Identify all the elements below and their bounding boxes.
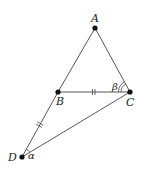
angle-beta-arcs bbox=[119, 82, 126, 92]
label-D: D bbox=[7, 151, 17, 164]
segment-BD bbox=[22, 92, 58, 157]
point-D bbox=[19, 154, 24, 159]
point-C bbox=[127, 89, 132, 94]
point-A bbox=[92, 25, 97, 30]
segment-AB bbox=[58, 28, 95, 92]
segment-CD bbox=[22, 92, 130, 157]
label-alpha: α bbox=[28, 150, 35, 161]
label-beta: β bbox=[111, 81, 118, 92]
point-B bbox=[55, 89, 60, 94]
label-A: A bbox=[90, 12, 99, 25]
geometry-diagram: A B C D β α bbox=[0, 0, 145, 172]
label-B: B bbox=[55, 95, 64, 108]
label-C: C bbox=[126, 96, 135, 109]
